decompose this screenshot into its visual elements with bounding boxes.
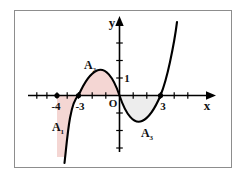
x-axis-label: x: [204, 98, 211, 113]
x-tick-label-minus3: -3: [75, 100, 85, 112]
region-label-A2-sub: 2: [93, 66, 97, 74]
y-tick-label-1: 1: [124, 72, 130, 84]
point-marker-minus4: [54, 93, 59, 98]
x-tick-label-minus4: -4: [51, 100, 61, 112]
figure-root: y x -4 -3 3 1 O A1 A2 A3: [0, 0, 246, 177]
region-label-A1-sub: 1: [61, 128, 65, 136]
x-tick-label-3: 3: [160, 100, 166, 112]
y-axis-arrowhead: [115, 16, 123, 26]
region-label-A3-sub: 3: [150, 134, 154, 142]
origin-label: O: [109, 97, 118, 109]
region-label-A2: A2: [84, 58, 97, 74]
region-label-A1-name: A: [52, 120, 61, 134]
region-label-A3: A3: [141, 126, 154, 142]
svg-text:A2: A2: [84, 58, 97, 74]
point-marker-3: [158, 93, 163, 98]
region-label-A2-name: A: [84, 58, 93, 72]
y-axis-label: y: [109, 15, 116, 30]
plot-canvas: y x -4 -3 3 1 O A1 A2 A3: [0, 0, 246, 177]
svg-text:A3: A3: [141, 126, 154, 142]
point-marker-minus3: [76, 93, 81, 98]
region-label-A3-name: A: [141, 126, 150, 140]
